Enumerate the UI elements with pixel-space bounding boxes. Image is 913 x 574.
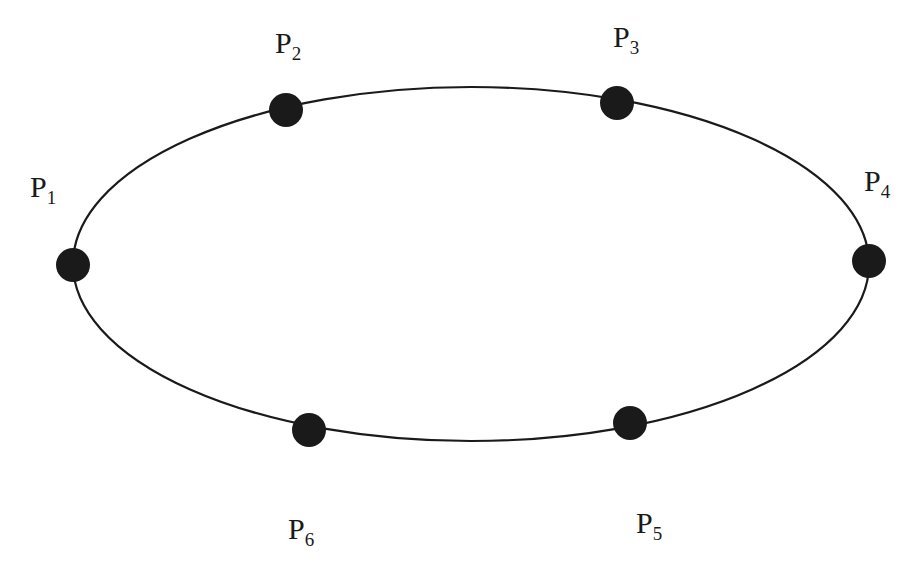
label-base: P (864, 164, 881, 197)
label-base: P (288, 512, 305, 545)
point-p6-marker (292, 413, 326, 447)
point-p1-marker (56, 248, 90, 282)
ellipse-outline (73, 87, 869, 441)
ellipse-diagram (0, 0, 913, 574)
label-subscript: 4 (881, 181, 891, 202)
point-p6-label: P6 (288, 514, 314, 549)
label-subscript: 1 (47, 187, 57, 208)
point-p1-label: P1 (30, 172, 56, 207)
label-base: P (613, 20, 630, 53)
point-p3-marker (600, 86, 634, 120)
label-subscript: 6 (305, 529, 315, 550)
point-p3-label: P3 (613, 22, 639, 57)
points-group (56, 86, 886, 447)
label-subscript: 5 (653, 523, 663, 544)
point-p5-label: P5 (636, 508, 662, 543)
point-p4-marker (852, 244, 886, 278)
label-base: P (275, 26, 292, 59)
label-base: P (636, 506, 653, 539)
point-p5-marker (613, 406, 647, 440)
point-p2-label: P2 (275, 28, 301, 63)
label-subscript: 2 (292, 43, 302, 64)
point-p4-label: P4 (864, 166, 890, 201)
label-subscript: 3 (630, 37, 640, 58)
point-p2-marker (269, 93, 303, 127)
label-base: P (30, 170, 47, 203)
